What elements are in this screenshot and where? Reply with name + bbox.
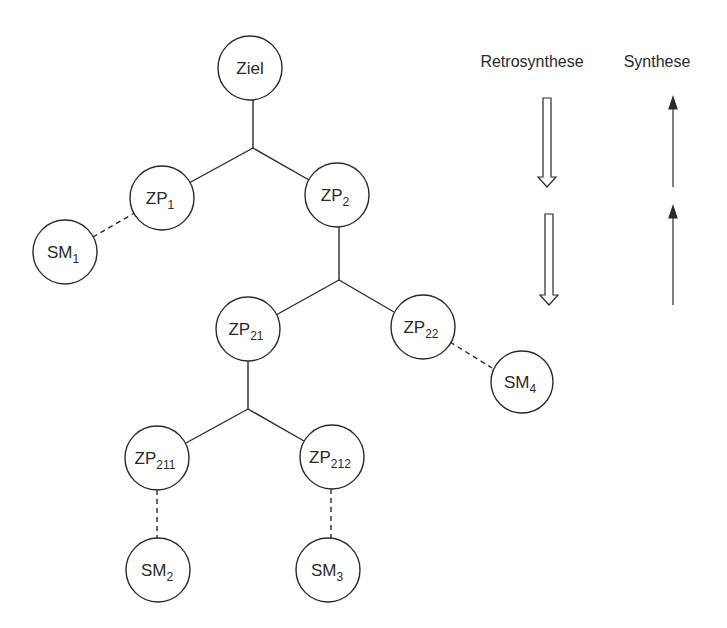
synthesis-arrow-up-icon [669,206,677,218]
edge-junction-zp2 [253,148,309,180]
edge-junction-zp211 [186,409,248,443]
edge-junction-zp22 [339,280,394,312]
edge-zp22-sm4 [450,342,492,368]
edge-junction-zp1 [189,148,253,183]
retrosynthesis-arrow-down-icon [540,214,558,305]
retrosynthesis-tree-diagram: Ziel ZP1 ZP2 SM1 ZP21 ZP22 SM4 ZP211 ZP2… [0,0,727,628]
header-retrosynthese: Retrosynthese [480,53,583,70]
edge-junction-zp21 [276,280,339,315]
edge-zp1-sm1 [93,212,136,237]
retrosynthesis-arrow-down-icon [538,98,556,187]
label-ziel: Ziel [236,59,263,78]
header-synthese: Synthese [624,53,691,70]
edge-junction-zp212 [248,409,304,441]
synthesis-arrow-up-icon [669,97,677,109]
